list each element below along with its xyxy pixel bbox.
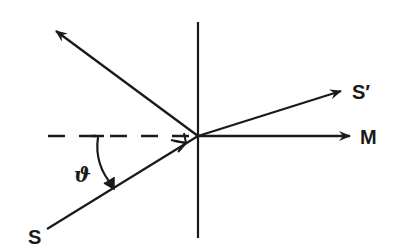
incident-ray [47, 136, 198, 229]
label-angle: ϑ [74, 163, 91, 187]
angle-arc-arrowhead [104, 177, 114, 189]
label-normal: M [360, 126, 377, 148]
label-refracted: S′ [352, 81, 370, 103]
reflected-ray [56, 31, 198, 136]
refracted-ray [198, 91, 341, 136]
angle-arc [97, 137, 113, 186]
ray-diagram: S′ M S ϑ [0, 0, 404, 252]
label-source: S [28, 226, 41, 248]
